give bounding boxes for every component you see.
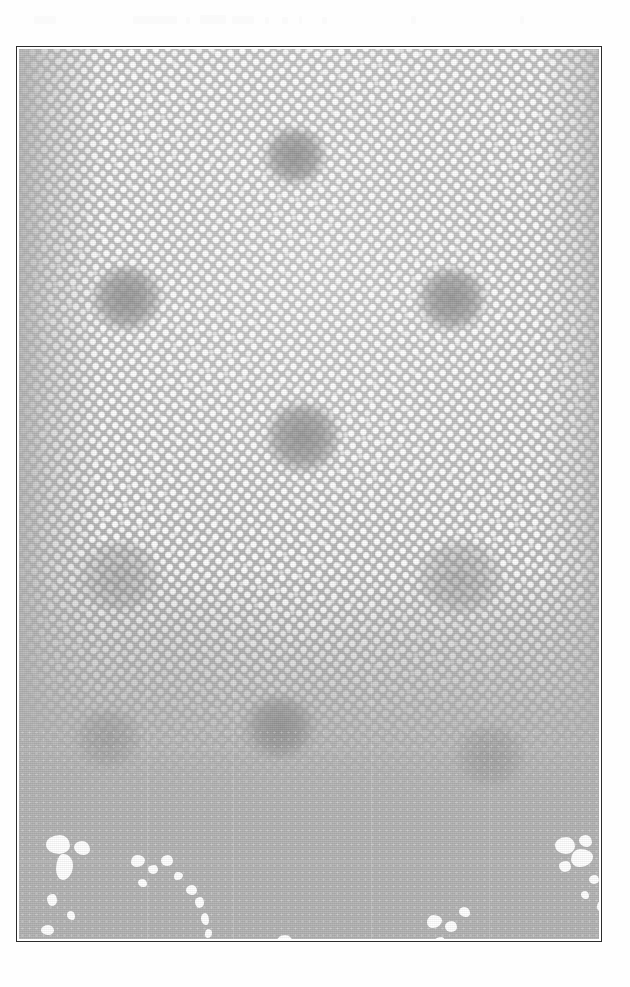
scan-artifact [200, 15, 226, 24]
scan-artifact [186, 17, 190, 24]
scan-artifact [299, 16, 302, 24]
plate-frame [16, 46, 602, 942]
scan-seam-vertical [147, 49, 148, 939]
page-root: { "artwork": { "title": "Halftone Screen… [0, 0, 630, 987]
scan-artifact [34, 16, 56, 24]
scan-seam-horizontal [19, 317, 599, 318]
scan-artifact [282, 17, 288, 24]
scan-artifact [520, 16, 524, 24]
scan-artifact [265, 17, 269, 24]
scan-artifact [322, 17, 327, 24]
scan-artifact [133, 16, 177, 24]
scan-seam-vertical [371, 49, 372, 939]
scan-seam-vertical [489, 49, 490, 939]
halftone-screen-secondary [19, 49, 599, 939]
scan-seam-horizontal [19, 749, 599, 750]
plate-inner [19, 49, 599, 939]
scan-seam-vertical [233, 49, 234, 939]
scan-artifact [411, 16, 416, 24]
scan-artifact-band [0, 0, 630, 40]
scan-artifact [232, 16, 254, 24]
scan-seam-horizontal [19, 569, 599, 570]
scan-seam-horizontal [19, 861, 599, 862]
